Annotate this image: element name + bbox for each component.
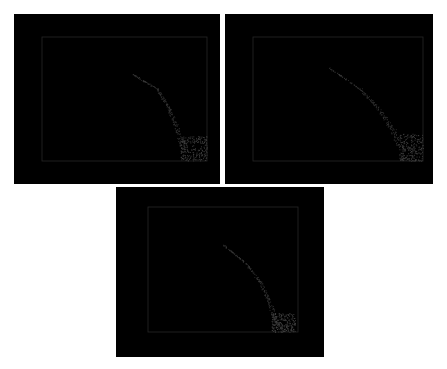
scatter-plot	[225, 14, 433, 184]
data-points	[329, 68, 424, 162]
data-points	[133, 74, 208, 161]
data-points	[223, 245, 296, 333]
scatter-plot	[14, 14, 220, 184]
plot-panel-top-left	[14, 14, 220, 184]
plot-panel-bottom	[116, 187, 324, 357]
scatter-plot	[116, 187, 324, 357]
plot-panel-top-right	[225, 14, 433, 184]
